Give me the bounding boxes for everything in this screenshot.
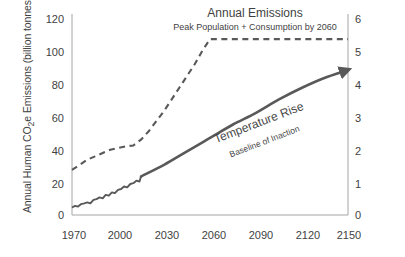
chart-container: Annual Emissions Peak Population + Consu… bbox=[0, 0, 405, 257]
series-annual-emissions bbox=[72, 39, 348, 170]
series-historical-emissions bbox=[72, 177, 141, 208]
plot-area bbox=[0, 0, 405, 257]
